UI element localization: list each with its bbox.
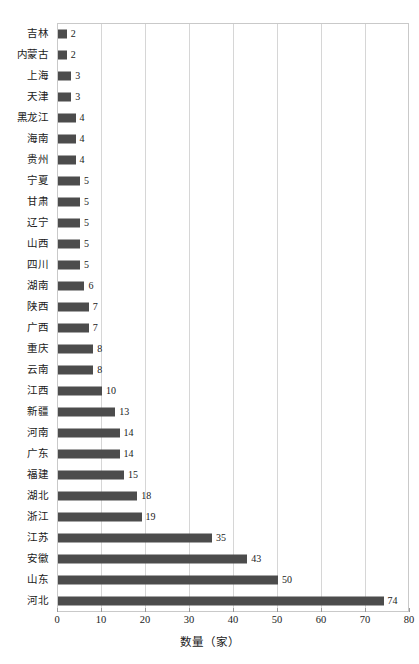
- bar-row: 河北74: [0, 591, 419, 611]
- bar-rows-layer: 吉林2内蒙古2上海3天津3黑龙江4海南4贵州4宁夏5甘肃5辽宁5山西5四川5湖南…: [0, 23, 419, 612]
- bar-row: 广东14: [0, 444, 419, 464]
- bar-row: 广西7: [0, 318, 419, 338]
- bar-value-label: 4: [80, 134, 85, 144]
- bar-row: 江西10: [0, 381, 419, 401]
- bar-value-label: 14: [124, 428, 134, 438]
- bar-value-label: 18: [141, 491, 151, 501]
- bar: [58, 92, 71, 101]
- bar-value-label: 6: [88, 281, 93, 291]
- x-tick-mark: [189, 608, 190, 612]
- bar-value-label: 14: [124, 449, 134, 459]
- bar-value-label: 8: [97, 344, 102, 354]
- bar-row: 陕西7: [0, 297, 419, 317]
- bar: [58, 281, 84, 290]
- bar: [58, 218, 80, 227]
- bar-row: 宁夏5: [0, 171, 419, 191]
- category-label: 山东: [27, 575, 48, 586]
- bar-row: 湖南6: [0, 276, 419, 296]
- bar-row: 黑龙江4: [0, 108, 419, 128]
- category-label: 吉林: [27, 28, 48, 39]
- x-tick-label: 20: [140, 615, 151, 626]
- bar-row: 山西5: [0, 234, 419, 254]
- x-tick-mark: [409, 608, 410, 612]
- bar-row: 重庆8: [0, 339, 419, 359]
- bar: [58, 239, 80, 248]
- bar-row: 新疆13: [0, 402, 419, 422]
- bar-row: 湖北18: [0, 486, 419, 506]
- bar: [58, 555, 247, 564]
- bar-value-label: 5: [84, 260, 89, 270]
- x-tick-mark: [57, 608, 58, 612]
- bar-value-label: 5: [84, 218, 89, 228]
- bar-row: 甘肃5: [0, 192, 419, 212]
- category-label: 新疆: [27, 407, 48, 418]
- category-label: 广东: [27, 449, 48, 460]
- bar: [58, 387, 102, 396]
- category-label: 辽宁: [27, 218, 48, 229]
- x-tick-label: 60: [316, 615, 327, 626]
- bar: [58, 197, 80, 206]
- bar-row: 福建15: [0, 465, 419, 485]
- bar: [58, 513, 142, 522]
- x-tick-label: 40: [228, 615, 239, 626]
- x-tick-label: 30: [184, 615, 195, 626]
- bar-row: 安徽43: [0, 549, 419, 569]
- category-label: 宁夏: [27, 176, 48, 187]
- bar: [58, 29, 67, 38]
- x-tick-mark: [145, 608, 146, 612]
- bar: [58, 366, 93, 375]
- bar-row: 云南8: [0, 360, 419, 380]
- bar-value-label: 5: [84, 197, 89, 207]
- bar-value-label: 3: [75, 71, 80, 81]
- x-axis-title: 数量（家）: [0, 637, 419, 649]
- category-label: 云南: [27, 365, 48, 376]
- bar: [58, 534, 212, 543]
- bar: [58, 176, 80, 185]
- bar-value-label: 35: [216, 533, 226, 543]
- x-tick-mark: [101, 608, 102, 612]
- bar-row: 天津3: [0, 87, 419, 107]
- bar: [58, 302, 89, 311]
- bar: [58, 155, 76, 164]
- bar-value-label: 74: [388, 596, 398, 606]
- bar: [58, 113, 76, 122]
- category-label: 浙江: [27, 512, 48, 523]
- bar: [58, 260, 80, 269]
- bar-value-label: 4: [80, 155, 85, 165]
- bar-value-label: 5: [84, 239, 89, 249]
- bar: [58, 492, 137, 501]
- bar-row: 四川5: [0, 255, 419, 275]
- category-label: 内蒙古: [17, 49, 49, 60]
- bar-row: 河南14: [0, 423, 419, 443]
- bar: [58, 324, 89, 333]
- bar-chart: 吉林2内蒙古2上海3天津3黑龙江4海南4贵州4宁夏5甘肃5辽宁5山西5四川5湖南…: [0, 0, 419, 664]
- bar: [58, 408, 115, 417]
- bar: [58, 597, 384, 606]
- bar-row: 江苏35: [0, 528, 419, 548]
- bar: [58, 429, 120, 438]
- x-axis-ticks: 01020304050607080: [0, 612, 419, 632]
- category-label: 甘肃: [27, 197, 48, 208]
- bar-value-label: 50: [282, 575, 292, 585]
- category-label: 广西: [27, 323, 48, 334]
- bar-row: 贵州4: [0, 150, 419, 170]
- bar-value-label: 4: [80, 113, 85, 123]
- bar-row: 上海3: [0, 66, 419, 86]
- x-tick-label: 10: [96, 615, 107, 626]
- bar-row: 吉林2: [0, 24, 419, 44]
- category-label: 海南: [27, 133, 48, 144]
- bar-value-label: 15: [128, 470, 138, 480]
- category-label: 安徽: [27, 554, 48, 565]
- bar-value-label: 8: [97, 365, 102, 375]
- bar-value-label: 43: [251, 554, 261, 564]
- x-tick-mark: [277, 608, 278, 612]
- bar-row: 浙江19: [0, 507, 419, 527]
- category-label: 四川: [27, 260, 48, 271]
- x-tick-mark: [365, 608, 366, 612]
- bar-value-label: 2: [71, 29, 76, 39]
- category-label: 江西: [27, 386, 48, 397]
- x-tick-mark: [233, 608, 234, 612]
- bar: [58, 134, 76, 143]
- bar: [58, 345, 93, 354]
- category-label: 天津: [27, 91, 48, 102]
